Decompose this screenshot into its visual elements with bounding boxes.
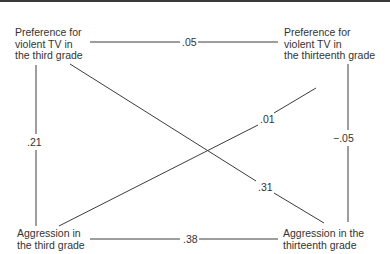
edge-diag-tl-br-line	[274, 193, 324, 223]
node-aggression-third-grade: Aggression in the third grade	[17, 228, 85, 251]
coef-top: .05	[181, 37, 198, 48]
edge-diag-bl-tr-line	[274, 88, 316, 113]
edge-diag-tl-br-line	[70, 64, 256, 181]
node-line: Preference for	[284, 27, 375, 39]
node-tv-thirteenth-grade: Preference for violent TV in the thirtee…	[284, 27, 375, 62]
node-line: Aggression in	[17, 228, 85, 240]
node-line: the thirteenth grade	[284, 50, 375, 62]
node-tv-third-grade: Preference for violent TV in the third g…	[15, 27, 83, 62]
coef-left: .21	[26, 137, 43, 148]
node-line: Aggression in the	[283, 228, 364, 240]
coef-bottom: .38	[182, 234, 199, 245]
edge-diag-bl-tr-line	[274, 62, 316, 113]
node-line: the third grade	[15, 50, 83, 62]
coef-diag-tl-br: .31	[257, 182, 274, 193]
coef-diag-bl-tr: .01	[259, 114, 276, 125]
node-line: Preference for	[15, 27, 83, 39]
coef-right: −.05	[332, 133, 355, 144]
node-line: the third grade	[17, 240, 85, 252]
edge-diag-bl-tr-line	[59, 125, 258, 226]
node-line: thirteenth grade	[283, 240, 364, 252]
node-aggression-thirteenth-grade: Aggression in the thirteenth grade	[283, 228, 364, 251]
